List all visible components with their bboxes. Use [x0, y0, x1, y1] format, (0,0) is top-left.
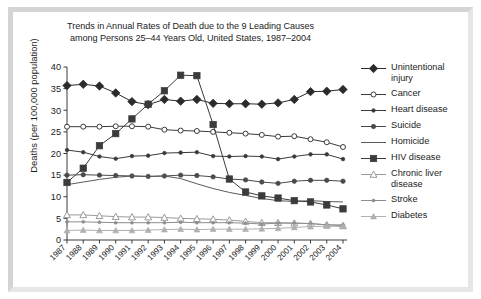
legend-marker-icon [360, 151, 387, 164]
series-stroke [66, 220, 345, 226]
series-line [67, 150, 343, 159]
legend-label-line-1: Diabetes [391, 210, 427, 221]
data-point-marker [81, 172, 85, 176]
series-line [67, 226, 343, 230]
data-point-marker [176, 97, 184, 105]
legend-item-homicide[interactable]: Homicide [360, 135, 478, 148]
series-line [67, 75, 343, 209]
legend-item-suicide[interactable]: Suicide [360, 119, 478, 132]
series-suicide [65, 172, 345, 185]
data-point-marker [195, 221, 198, 224]
series-line [67, 222, 343, 225]
series-homicide [67, 176, 343, 202]
data-point-marker [341, 145, 346, 150]
series-diabetes [64, 223, 346, 233]
series-hiv-disease [64, 72, 346, 212]
data-point-marker [325, 153, 329, 157]
data-point-marker [209, 99, 217, 107]
data-point-marker [97, 124, 102, 129]
figure-inner: Trends in Annual Rates of Death due to t… [13, 12, 468, 287]
legend-item-stroke[interactable]: Stroke [360, 193, 478, 206]
data-point-marker [372, 109, 376, 113]
legend-marker-icon [360, 61, 387, 74]
series-unintentional-injury [63, 80, 347, 109]
y-tick-label: 35 [51, 84, 61, 94]
data-point-marker [96, 143, 102, 149]
data-point-marker [241, 100, 249, 108]
series-cancer [65, 124, 346, 150]
data-point-marker [309, 153, 313, 157]
data-point-marker [79, 80, 87, 88]
data-point-marker [64, 179, 70, 185]
x-tick-label: 1995 [178, 243, 198, 263]
series-line [67, 176, 343, 202]
data-point-marker [244, 154, 248, 158]
data-point-marker [178, 128, 183, 133]
y-tick-label: 0 [56, 235, 61, 245]
data-point-marker [258, 100, 266, 108]
data-point-marker [178, 173, 182, 177]
data-point-marker [371, 124, 375, 128]
y-tick-label: 25 [51, 127, 61, 137]
x-tick-label: 1996 [194, 243, 214, 263]
x-tick-label: 2000 [259, 243, 279, 263]
data-point-marker [177, 72, 183, 78]
y-tick-label: 15 [51, 170, 61, 180]
data-point-marker [306, 87, 314, 95]
data-point-marker [161, 88, 167, 94]
data-point-marker [340, 206, 346, 212]
x-tick-label: 1988 [64, 243, 84, 263]
x-tick-label: 1991 [113, 243, 133, 263]
data-point-marker [65, 173, 69, 177]
x-tick-label: 2003 [308, 243, 328, 263]
data-point-marker [193, 95, 201, 103]
data-point-marker [308, 178, 312, 182]
legend-item-chronic-liver-disease[interactable]: Chronic liverdisease [360, 167, 478, 190]
data-point-marker [369, 64, 377, 72]
data-point-marker [210, 121, 216, 127]
data-point-marker [98, 221, 101, 224]
data-point-marker [130, 154, 134, 158]
legend-item-cancer[interactable]: Cancer [360, 87, 478, 100]
legend-item-unintentional-injury[interactable]: Unintentionalinjury [360, 61, 478, 84]
data-point-marker [114, 157, 118, 161]
data-point-marker [82, 220, 85, 223]
data-point-marker [146, 124, 151, 129]
series-group [63, 72, 347, 233]
data-point-marker [162, 127, 167, 132]
data-point-marker [277, 222, 280, 225]
data-point-marker [81, 150, 85, 154]
data-point-marker [113, 124, 118, 129]
series-heart-disease [65, 148, 345, 161]
y-tick-label: 5 [56, 214, 61, 224]
data-point-marker [260, 180, 264, 184]
legend-item-diabetes[interactable]: Diabetes [360, 209, 478, 222]
data-point-marker [195, 173, 199, 177]
data-point-marker [325, 178, 329, 182]
data-point-marker [276, 134, 281, 139]
series-chronic-liver-disease [64, 212, 347, 229]
data-point-marker [290, 95, 298, 103]
data-point-marker [163, 221, 166, 224]
legend-marker-icon [360, 87, 387, 100]
x-tick-label: 2001 [275, 243, 295, 263]
legend-label: Suicide [391, 119, 421, 131]
data-point-marker [97, 173, 101, 177]
data-point-marker [260, 155, 264, 159]
data-point-marker [260, 222, 263, 225]
legend-item-hiv-disease[interactable]: HIV disease [360, 151, 478, 164]
legend-label-line-1: Unintentional [391, 62, 445, 73]
legend-label-line-2: injury [391, 73, 445, 84]
legend-label-line-1: HIV disease [391, 152, 441, 163]
data-point-marker [276, 157, 280, 161]
legend-marker-icon [360, 209, 387, 222]
y-tick-labels: 0510152025303540 [51, 62, 61, 245]
legend-item-heart-disease[interactable]: Heart disease [360, 103, 478, 116]
data-point-marker [211, 175, 215, 179]
data-point-marker [307, 199, 313, 205]
x-tick-label: 1993 [146, 243, 166, 263]
x-tick-labels: 1987198819891990199119921993199419951996… [48, 243, 344, 263]
data-point-marker [228, 221, 231, 224]
data-point-marker [259, 132, 264, 137]
chart-legend: UnintentionalinjuryCancerHeart diseaseSu… [360, 61, 478, 225]
